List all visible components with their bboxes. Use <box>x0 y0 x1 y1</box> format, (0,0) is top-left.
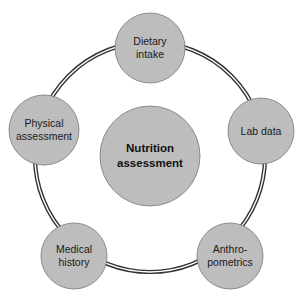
physical-assessment-label-line: assessment <box>16 130 72 142</box>
nutrition-assessment-label-line: Nutrition <box>126 142 174 154</box>
medical-history-label-line: Medical <box>56 243 92 255</box>
node-medical-history: Medicalhistory <box>41 223 107 289</box>
node-lab-data: Lab data <box>228 98 294 164</box>
dietary-intake-label-line: Dietary <box>133 35 167 47</box>
center-circle: Nutritionassessment <box>100 106 200 206</box>
nutrition-assessment-label-line: assessment <box>117 157 183 169</box>
nutrition-assessment-circle <box>100 106 200 206</box>
dietary-intake-label-line: intake <box>136 48 164 60</box>
node-anthropometrics: Anthro-pometrics <box>197 223 263 289</box>
nutrition-assessment-diagram: Nutritionassessment DietaryintakeLab dat… <box>0 0 301 298</box>
node-physical-assessment: Physicalassessment <box>9 95 79 165</box>
anthropometrics-label-line: pometrics <box>207 256 253 268</box>
anthropometrics-label-line: Anthro- <box>213 243 248 255</box>
lab-data-label-line: Lab data <box>241 125 282 137</box>
node-dietary-intake: Dietaryintake <box>115 13 185 83</box>
medical-history-label-line: history <box>59 256 91 268</box>
physical-assessment-label-line: Physical <box>24 117 63 129</box>
